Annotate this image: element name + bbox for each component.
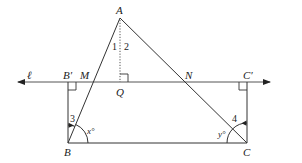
label-angle-4: 4 (232, 113, 237, 124)
label-M: M (79, 69, 90, 81)
label-angle-y: y° (217, 129, 226, 139)
angle-y-arc (227, 129, 233, 143)
label-B: B (64, 146, 71, 158)
label-angle-x: x° (86, 126, 95, 136)
label-angle-2: 2 (124, 41, 129, 52)
label-Q: Q (116, 86, 124, 98)
label-A: A (115, 4, 123, 16)
label-N: N (184, 69, 193, 81)
label-C-prime: C′ (243, 69, 253, 81)
segment-AC (120, 18, 247, 143)
label-line-l: ℓ (27, 69, 32, 81)
label-angle-3: 3 (70, 113, 75, 124)
label-angle-1: 1 (112, 41, 117, 52)
geometry-diagram: A B C B′ C′ M N Q ℓ 1 2 3 4 x° y° (0, 0, 302, 163)
right-angle-marker-B-prime (68, 82, 76, 90)
angle-4-arrowhead (242, 121, 247, 126)
label-B-prime: B′ (63, 69, 73, 81)
label-C: C (243, 146, 251, 158)
segment-AB (68, 18, 120, 143)
right-angle-marker-Q (120, 74, 128, 82)
right-angle-marker-C-prime (239, 82, 247, 90)
